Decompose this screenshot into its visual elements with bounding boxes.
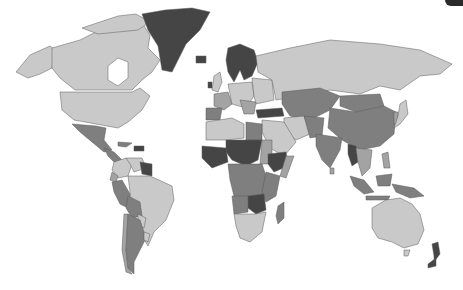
region-egypt[interactable] (246, 122, 262, 140)
region-tasmania[interactable] (404, 250, 410, 256)
region-maghreb[interactable] (206, 118, 244, 140)
region-balkans[interactable] (240, 100, 256, 114)
region-india[interactable] (316, 134, 342, 168)
region-sri-lanka[interactable] (330, 168, 334, 174)
region-iceland[interactable] (196, 56, 206, 63)
region-southeast-asia[interactable] (356, 148, 372, 176)
region-southern-africa[interactable] (234, 212, 266, 242)
region-ireland[interactable] (208, 82, 212, 88)
region-spain[interactable] (206, 108, 222, 120)
region-turkey[interactable] (256, 108, 284, 118)
region-madagascar[interactable] (276, 202, 284, 224)
region-australia[interactable] (372, 198, 424, 248)
region-scandinavia[interactable] (226, 44, 258, 82)
region-zambia-zimbabwe[interactable] (248, 194, 266, 214)
region-new-zealand[interactable] (428, 242, 440, 268)
world-choropleth-map (0, 0, 463, 290)
region-united-states[interactable] (60, 88, 150, 128)
region-west-africa[interactable] (202, 146, 228, 168)
region-alaska[interactable] (16, 46, 55, 78)
region-eastern-europe[interactable] (252, 78, 274, 104)
region-russia[interactable] (256, 40, 452, 100)
region-indonesia[interactable] (350, 174, 392, 200)
region-papua-new-guinea[interactable] (392, 184, 424, 198)
region-sahel[interactable] (226, 140, 262, 166)
region-guianas[interactable] (140, 162, 152, 176)
region-france[interactable] (214, 92, 232, 110)
region-hispaniola[interactable] (134, 146, 144, 151)
corner-artifact (445, 0, 463, 6)
region-cuba[interactable] (118, 142, 132, 147)
region-uk[interactable] (212, 72, 222, 92)
region-mexico[interactable] (72, 124, 112, 152)
region-philippines[interactable] (382, 152, 390, 168)
region-angola[interactable] (232, 196, 248, 214)
